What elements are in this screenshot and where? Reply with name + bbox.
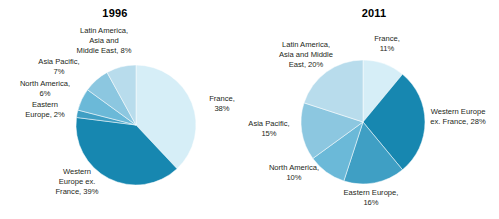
- label-2011-france: France, 11%: [361, 34, 413, 54]
- label-1996-latin-america: Latin America, Asia and Middle East, 8%: [43, 26, 165, 56]
- label-2011-asia-pacific: Asia Pacific, 15%: [234, 119, 304, 139]
- label-2011-latin-america: Latin America, Asia and Middle East, 20%: [257, 40, 355, 70]
- label-1996-north-america: North America, 6%: [2, 79, 88, 99]
- label-1996-france: France, 38%: [198, 94, 246, 114]
- label-1996-asia-pacific: Asia Pacific, 7%: [16, 57, 102, 77]
- label-2011-western-europe: Western Europe ex. France, 28%: [416, 107, 499, 127]
- label-2011-eastern-europe: Eastern Europe, 16%: [327, 188, 415, 208]
- label-1996-western-europe: Western Europe ex. France, 39%: [35, 167, 119, 197]
- chart-panel-2011: 2011 Latin America, Asia and Middle East…: [249, 0, 499, 219]
- chart-panel-1996: 1996 Latin America, Asia and Middle East…: [0, 0, 250, 219]
- label-1996-eastern-europe: Eastern Europe, 2%: [7, 100, 83, 120]
- pie-chart-figure: 1996 Latin America, Asia and Middle East…: [0, 0, 499, 219]
- label-2011-north-america: North America, 10%: [252, 163, 336, 183]
